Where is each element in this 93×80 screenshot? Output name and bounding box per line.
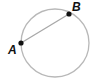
point-a [18,40,23,45]
chord-ab [21,14,69,43]
label-a: A [7,43,17,57]
circle-diagram: A B [0,0,93,80]
label-b: B [72,0,81,14]
circle [21,9,89,77]
point-b [66,11,71,16]
